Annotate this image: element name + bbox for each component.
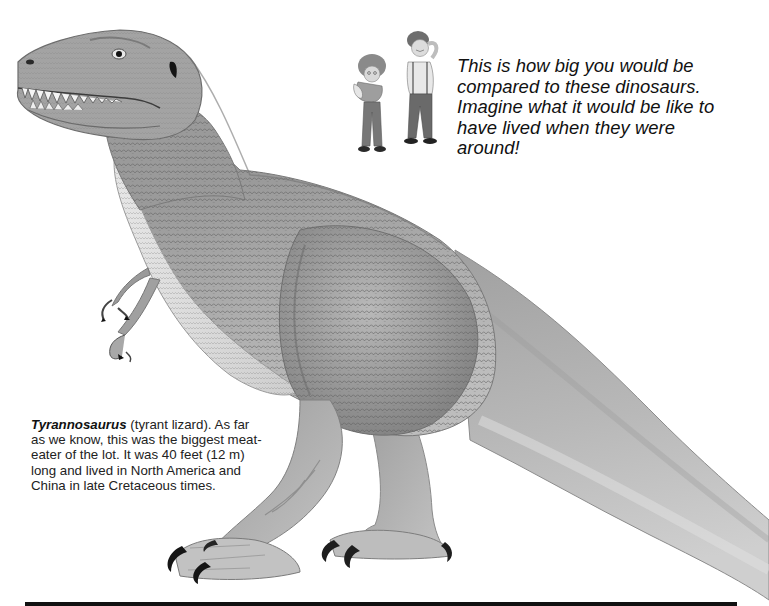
caption-line: This is how big you would be: [457, 56, 757, 77]
caption-line: around!: [457, 138, 757, 159]
size-comparison-caption: This is how big you would be compared to…: [457, 56, 757, 159]
book-page: This is how big you would be compared to…: [0, 0, 769, 606]
caption-line: Imagine what it would be like to: [457, 97, 757, 118]
species-description: Tyrannosaurus (tyrant lizard). As far as…: [31, 417, 263, 493]
bottom-rule-divider: [25, 602, 737, 606]
caption-line: compared to these dinosaurs.: [457, 77, 757, 98]
caption-line: have lived when they were: [457, 118, 757, 139]
child-left: [354, 54, 386, 152]
child-right: [404, 31, 437, 144]
children-figures: [350, 22, 450, 162]
species-name: Tyrannosaurus: [31, 417, 127, 432]
